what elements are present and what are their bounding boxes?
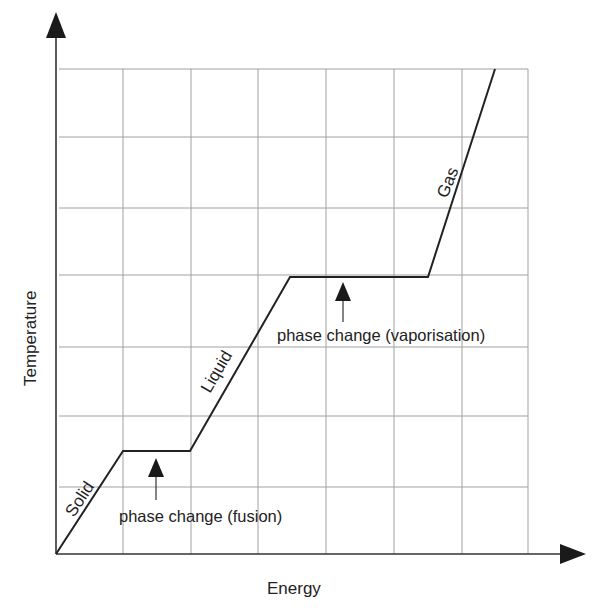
heating-curve-chart: Solid Liquid Gas phase change (fusion) p… — [0, 0, 610, 616]
y-axis-arrow-icon — [46, 12, 66, 38]
fusion-callout: phase change (fusion) — [119, 507, 282, 525]
fusion-arrow-icon — [148, 458, 164, 500]
axes — [56, 34, 562, 554]
liquid-label: Liquid — [197, 347, 236, 396]
x-axis-title: Energy — [267, 579, 321, 598]
vaporisation-arrow-icon — [335, 282, 351, 322]
y-axis-title: Temperature — [21, 291, 40, 386]
x-axis-arrow-icon — [560, 544, 586, 564]
vaporisation-callout: phase change (vaporisation) — [277, 326, 485, 344]
grid — [59, 69, 528, 554]
heating-curve-line — [56, 69, 495, 554]
